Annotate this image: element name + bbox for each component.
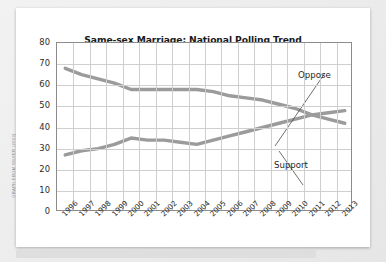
gridline-vertical xyxy=(205,43,206,210)
gridline-vertical xyxy=(106,43,107,210)
gridline-horizontal xyxy=(57,85,351,86)
gridline-vertical xyxy=(271,43,272,210)
annotation-support: Support xyxy=(274,160,308,170)
y-axis-tick-label: 10 xyxy=(22,185,50,195)
y-axis-tick-label: 40 xyxy=(22,122,50,132)
gridline-vertical xyxy=(73,43,74,210)
gridline-vertical xyxy=(320,43,321,210)
y-axis-tick-label: 70 xyxy=(22,58,50,68)
gridline-vertical xyxy=(156,43,157,210)
gridline-vertical xyxy=(304,43,305,210)
source-credit: GRAPH FROM SILVER (2013) xyxy=(11,127,16,205)
y-axis-tick-label: 60 xyxy=(22,79,50,89)
plot-area xyxy=(56,42,352,211)
gridline-vertical xyxy=(189,43,190,210)
gridline-horizontal xyxy=(57,106,351,107)
gridline-vertical xyxy=(287,43,288,210)
gridline-horizontal xyxy=(57,149,351,150)
y-axis-tick-label: 50 xyxy=(22,100,50,110)
gridline-vertical xyxy=(238,43,239,210)
y-axis-tick-label: 0 xyxy=(22,206,50,216)
gridline-vertical xyxy=(172,43,173,210)
chart-card: Same-sex Marriage: National Polling Tren… xyxy=(16,8,370,247)
gridline-horizontal xyxy=(57,128,351,129)
annotation-leader-line xyxy=(275,73,325,146)
gridline-vertical xyxy=(337,43,338,210)
page-bottom-strip xyxy=(16,250,316,258)
y-axis-tick-label: 30 xyxy=(22,143,50,153)
gridline-vertical xyxy=(221,43,222,210)
gridline-vertical xyxy=(139,43,140,210)
gridline-vertical xyxy=(254,43,255,210)
gridline-vertical xyxy=(90,43,91,210)
y-axis-tick-label: 20 xyxy=(22,164,50,174)
gridline-horizontal xyxy=(57,64,351,65)
gridline-vertical xyxy=(123,43,124,210)
annotation-oppose: Oppose xyxy=(298,70,331,80)
gridline-horizontal xyxy=(57,191,351,192)
page-background: GRAPH FROM SILVER (2013) Same-sex Marria… xyxy=(0,0,386,262)
y-axis-tick-label: 80 xyxy=(22,37,50,47)
